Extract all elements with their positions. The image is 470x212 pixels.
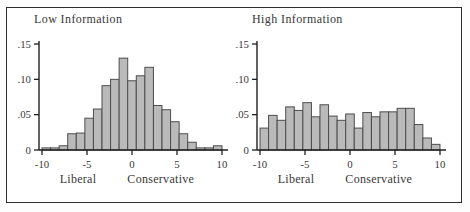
histogram-bar [269, 115, 278, 150]
histogram-bar [363, 113, 372, 150]
histogram-bar [128, 81, 137, 150]
axis-label-conservative: Conservative [127, 172, 194, 186]
histogram-bar [111, 79, 120, 150]
y-tick-label: .10 [236, 73, 250, 85]
y-tick-label: .15 [236, 38, 250, 50]
y-tick-label: 0 [244, 144, 249, 156]
histogram-bar [286, 107, 295, 150]
histogram-bar [329, 116, 338, 150]
high-information-histogram: 0.05.10.15-10-50510High InformationLiber… [227, 10, 455, 210]
axis-label-liberal: Liberal [278, 172, 315, 186]
y-tick-label: 0 [26, 144, 31, 156]
histogram-bar [414, 125, 423, 150]
y-tick-label: .15 [18, 38, 32, 50]
histogram-bar [277, 120, 286, 150]
histogram-bar [294, 110, 303, 150]
histogram-bar [431, 144, 440, 150]
histogram-bar [389, 112, 398, 150]
histogram-bar [153, 105, 162, 150]
x-tick-label: -5 [301, 158, 310, 170]
histogram-bar [188, 142, 197, 150]
low-information-histogram: 0.05.10.15-10-50510Low InformationLibera… [9, 10, 237, 210]
x-tick-label: -5 [83, 158, 92, 170]
x-tick-label: 0 [347, 158, 352, 170]
histogram-bar [260, 128, 269, 150]
y-tick-label: .05 [236, 108, 250, 120]
histogram-bar [85, 118, 94, 150]
histogram-bar [337, 120, 346, 150]
histogram-bar [145, 67, 154, 150]
histogram-bar [119, 58, 128, 150]
x-tick-label: 10 [435, 158, 446, 170]
histogram-bar [320, 105, 329, 150]
x-tick-label: 10 [217, 158, 228, 170]
histogram-bar [354, 128, 363, 150]
x-tick-label: -10 [253, 158, 267, 170]
x-tick-label: -10 [35, 158, 49, 170]
histogram-bar [179, 134, 188, 150]
panel-low-information: 0.05.10.15-10-50510Low InformationLibera… [9, 10, 237, 210]
x-tick-label: 5 [174, 158, 179, 170]
histogram-bar [162, 110, 171, 150]
histogram-bar [303, 103, 312, 150]
histogram-bar [423, 138, 432, 150]
histogram-bar [397, 108, 406, 150]
y-tick-label: .05 [18, 108, 32, 120]
x-tick-label: 5 [392, 158, 397, 170]
histogram-bar [68, 134, 77, 150]
histogram-bar [76, 133, 85, 150]
chart-title: Low Information [34, 12, 122, 26]
histogram-bar [406, 108, 415, 150]
figure: 0.05.10.15-10-50510Low InformationLibera… [0, 0, 470, 212]
histogram-bar [380, 112, 389, 150]
x-tick-label: 0 [129, 158, 134, 170]
panel-high-information: 0.05.10.15-10-50510High InformationLiber… [227, 10, 455, 210]
axis-label-conservative: Conservative [345, 172, 412, 186]
histogram-bar [311, 117, 320, 150]
histogram-bar [346, 114, 355, 150]
axis-label-liberal: Liberal [60, 172, 97, 186]
histogram-bar [102, 86, 111, 150]
histogram-bar [136, 76, 145, 150]
histogram-bar [371, 117, 380, 150]
histogram-bar [171, 122, 180, 150]
chart-title: High Information [252, 12, 343, 26]
histogram-bar [93, 109, 102, 150]
y-tick-label: .10 [18, 73, 32, 85]
